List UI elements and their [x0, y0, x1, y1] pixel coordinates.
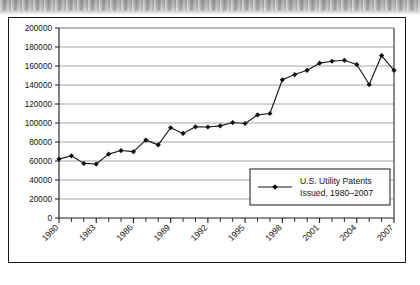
data-point-marker	[342, 58, 347, 63]
x-tick-label: 1989	[151, 222, 172, 243]
y-tick-label: 60000	[29, 157, 52, 166]
data-point-marker	[230, 120, 235, 125]
x-tick-label: 2004	[338, 222, 359, 243]
data-point-marker	[367, 82, 372, 87]
data-series-line	[59, 56, 394, 164]
figure-frame: 0200004000060000800001000001200001400001…	[8, 17, 406, 263]
y-tick-label: 20000	[29, 195, 52, 204]
data-point-marker	[205, 124, 210, 129]
data-point-marker	[305, 68, 310, 73]
data-point-marker	[193, 124, 198, 129]
data-point-marker	[292, 72, 297, 77]
x-tick-label: 1995	[226, 222, 247, 243]
x-axis-tick-labels: 1980198319861989199219951998200120042007	[40, 222, 396, 243]
data-point-marker	[69, 153, 74, 158]
legend-label-line-1: U.S. Utility Patents	[300, 176, 372, 186]
y-tick-label: 160000	[25, 62, 53, 71]
x-axis-ticks	[59, 218, 394, 223]
y-tick-label: 140000	[25, 81, 53, 90]
data-point-marker	[267, 111, 272, 116]
y-tick-label: 120000	[25, 100, 53, 109]
data-point-marker	[329, 59, 334, 64]
y-axis-ticks	[55, 28, 59, 218]
x-tick-label: 1986	[114, 222, 135, 243]
y-tick-label: 80000	[29, 138, 52, 147]
data-series-markers	[56, 53, 396, 167]
x-tick-label: 2007	[375, 222, 396, 243]
y-tick-label: 0	[47, 214, 52, 223]
y-tick-label: 40000	[29, 176, 52, 185]
legend-label-line-2: Issued, 1980–2007	[300, 188, 373, 198]
data-point-marker	[317, 61, 322, 66]
x-tick-label: 1992	[189, 222, 210, 243]
scan-artifact-fade	[0, 11, 420, 15]
y-tick-label: 180000	[25, 43, 53, 52]
line-chart: 0200004000060000800001000001200001400001…	[9, 18, 405, 262]
x-tick-label: 1998	[263, 222, 284, 243]
y-axis-tick-labels: 0200004000060000800001000001200001400001…	[25, 24, 53, 223]
data-point-marker	[81, 161, 86, 166]
y-tick-label: 100000	[25, 119, 53, 128]
chart-legend[interactable]: U.S. Utility Patents Issued, 1980–2007	[250, 169, 390, 205]
x-tick-label: 2001	[300, 222, 321, 243]
data-point-marker	[218, 123, 223, 128]
data-point-marker	[180, 131, 185, 136]
x-tick-label: 1983	[77, 222, 98, 243]
data-point-marker	[118, 148, 123, 153]
x-tick-label: 1980	[40, 222, 61, 243]
y-tick-label: 200000	[25, 24, 53, 33]
scan-artifact-band	[0, 0, 420, 11]
data-point-marker	[280, 77, 285, 82]
